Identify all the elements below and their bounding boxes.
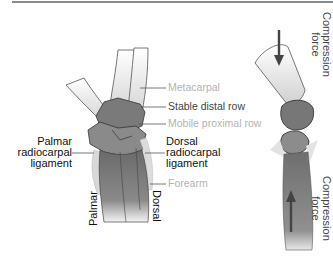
label-palmar-side: Palmar [88, 191, 99, 226]
label-metacarpal: Metacarpal [168, 82, 220, 93]
label-line: Compression [321, 176, 332, 241]
label-compression-force-bottom: Compression force [310, 176, 332, 241]
label-dorsal-radiocarpal-ligament: Dorsal radiocarpal ligament [166, 136, 220, 169]
label-line: force [310, 12, 321, 77]
label-compression-force-top: Compression force [310, 12, 332, 77]
right-carpus-figure [255, 30, 318, 250]
label-line: force [310, 176, 321, 241]
label-line: ligament [12, 158, 72, 169]
label-mobile-proximal-row: Mobile proximal row [168, 118, 261, 129]
label-dorsal-side: Dorsal [151, 190, 162, 222]
label-line: ligament [166, 158, 220, 169]
label-line: Compression [321, 12, 332, 77]
label-palmar-radiocarpal-ligament: Palmar radiocarpal ligament [12, 136, 72, 169]
carpus-illustration [0, 0, 333, 259]
label-forearm: Forearm [168, 178, 208, 189]
label-stable-distal-row: Stable distal row [168, 101, 245, 112]
